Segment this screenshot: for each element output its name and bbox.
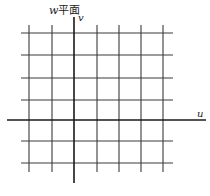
u-axis-label: u: [197, 108, 203, 119]
plane-title: w平面: [49, 4, 80, 17]
w-plane-diagram: w平面 v u: [0, 0, 210, 196]
v-axis-label: v: [78, 12, 84, 23]
grid-lines: [21, 25, 173, 172]
